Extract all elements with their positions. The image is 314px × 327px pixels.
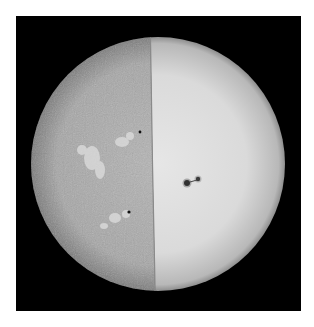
small-sunspot-lower: [127, 210, 130, 213]
sun-disc-image: [0, 0, 314, 327]
small-sunspot-upper: [139, 131, 142, 134]
